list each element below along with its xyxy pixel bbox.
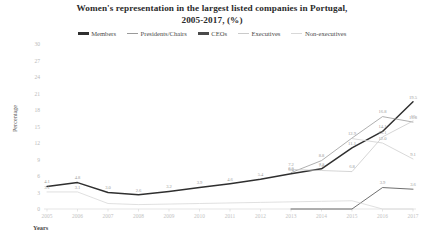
- data-point-label: 8.8: [319, 153, 325, 158]
- legend-item-ceos[interactable]: CEOs: [198, 30, 227, 37]
- data-point-label: 5.4: [258, 172, 264, 177]
- legend-item-members[interactable]: Members: [78, 30, 116, 37]
- data-point-label: 12.0: [378, 136, 387, 141]
- plot-area: 4.14.83.02.63.23.94.65.46.47.311.114.119…: [44, 44, 416, 209]
- chart-legend: MembersPresidents/ChairsCEOsExecutivesNo…: [0, 30, 424, 37]
- legend-label: Executives: [252, 30, 281, 37]
- y-axis-tick-label: 6: [24, 173, 40, 179]
- series-line-non-executives: [47, 192, 413, 209]
- x-axis-tick-label: 2015: [339, 213, 365, 219]
- x-axis-tick-label: 2006: [65, 213, 91, 219]
- series-line-ceos: [291, 188, 413, 209]
- data-point-label: 16: [411, 114, 416, 119]
- data-point-label: 4.1: [44, 179, 50, 184]
- chart-title-line-1: Women's representation in the largest li…: [0, 3, 424, 15]
- y-axis-label: Percentage: [11, 89, 18, 149]
- data-point-label: 2.6: [136, 188, 142, 193]
- legend-label: CEOs: [211, 30, 227, 37]
- data-point-label: 13.1: [378, 130, 387, 135]
- legend-swatch-icon: [198, 32, 209, 34]
- y-axis-tick-label: 30: [24, 41, 40, 47]
- data-point-label: 4.6: [227, 177, 233, 182]
- data-point-label: 11.1: [348, 141, 357, 146]
- series-line-non-executives-upper: [352, 139, 413, 159]
- legend-label: Presidents/Chairs: [141, 30, 187, 37]
- legend-item-executives[interactable]: Executives: [238, 30, 280, 37]
- data-point-label: 3.9: [197, 180, 203, 185]
- y-axis-tick-label: 27: [24, 58, 40, 64]
- data-point-label: 7.0: [319, 163, 325, 168]
- x-axis-tick-label: 2014: [309, 213, 335, 219]
- data-point-label: 3.1: [44, 185, 50, 190]
- x-axis-tick-label: 2007: [95, 213, 121, 219]
- y-axis-tick-label: 15: [24, 124, 40, 130]
- legend-label: Non-executives: [305, 30, 346, 37]
- data-point-label: 3.6: [410, 182, 416, 187]
- data-point-label: 19.5: [409, 95, 418, 100]
- data-point-label: 12.9: [348, 131, 357, 136]
- x-axis-tick-label: 2013: [278, 213, 304, 219]
- y-axis-tick-label: 9: [24, 157, 40, 163]
- y-axis-tick-label: 12: [24, 140, 40, 146]
- chart-svg: 4.14.83.02.63.23.94.65.46.47.311.114.119…: [44, 44, 416, 209]
- y-axis-tick-label: 18: [24, 107, 40, 113]
- chart-container: Women's representation in the largest li…: [0, 0, 424, 238]
- legend-item-non-executives[interactable]: Non-executives: [291, 30, 346, 37]
- chart-title: Women's representation in the largest li…: [0, 3, 424, 26]
- y-axis-tick-label: 24: [24, 74, 40, 80]
- data-point-label: 3.1: [75, 185, 81, 190]
- x-axis-tick-label: 2008: [126, 213, 152, 219]
- y-axis-tick-label: 3: [24, 190, 40, 196]
- x-axis-tick-label: 2005: [34, 213, 60, 219]
- y-axis-tick-label: 21: [24, 91, 40, 97]
- legend-swatch-icon: [78, 32, 89, 34]
- legend-swatch-icon: [127, 33, 138, 34]
- x-axis-tick-label: 2017: [400, 213, 424, 219]
- x-axis-tick-label: 2011: [217, 213, 243, 219]
- x-axis-tick-label: 2016: [370, 213, 396, 219]
- data-point-label: 3.9: [380, 180, 386, 185]
- data-point-label: 3.2: [166, 184, 172, 189]
- y-axis-tick-label: 0: [24, 206, 40, 212]
- x-axis-tick-label: 2010: [187, 213, 213, 219]
- data-point-label: 4.8: [75, 175, 81, 180]
- chart-title-line-2: 2005-2017, (%): [0, 15, 424, 27]
- data-point-label: 14.1: [378, 124, 387, 129]
- data-point-label: 3.0: [105, 185, 111, 190]
- legend-label: Members: [91, 30, 116, 37]
- data-point-label: 7.2: [288, 162, 294, 167]
- legend-swatch-icon: [291, 33, 302, 34]
- legend-item-presidents-chairs[interactable]: Presidents/Chairs: [127, 30, 187, 37]
- x-axis-label: Years: [33, 224, 48, 231]
- data-point-label: 16.8: [378, 109, 387, 114]
- legend-swatch-icon: [238, 33, 249, 34]
- data-point-label: 6.8: [349, 164, 355, 169]
- x-axis-tick-label: 2012: [248, 213, 274, 219]
- data-point-label: 9.1: [410, 152, 416, 157]
- x-axis-tick-label: 2009: [156, 213, 182, 219]
